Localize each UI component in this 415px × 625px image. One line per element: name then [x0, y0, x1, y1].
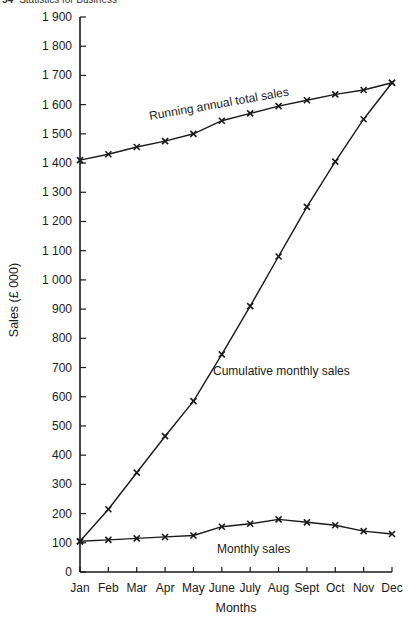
line-chart: 01002003004005006007008009001 0001 1001 …: [0, 0, 415, 625]
y-tick-label: 200: [52, 507, 72, 521]
y-tick-label: 1 400: [42, 156, 72, 170]
series-group: [77, 80, 395, 545]
x-tick-label: July: [240, 581, 261, 595]
y-tick-label: 0: [65, 565, 72, 579]
x-tick-label: Dec: [381, 581, 402, 595]
x-tick-label: June: [209, 581, 235, 595]
series-annotation: Running annual total sales: [148, 85, 290, 123]
y-tick-label: 1 700: [42, 68, 72, 82]
y-tick-label: 300: [52, 477, 72, 491]
x-marker-icon: [247, 303, 253, 309]
x-tick-label: Aug: [268, 581, 289, 595]
y-tick-label: 1 300: [42, 185, 72, 199]
y-tick-label: 500: [52, 419, 72, 433]
x-marker-icon: [276, 254, 282, 260]
series-line: [80, 83, 392, 542]
y-tick-label: 1 800: [42, 39, 72, 53]
series-annotation: Monthly sales: [217, 542, 290, 556]
y-tick-label: 1 100: [42, 244, 72, 258]
x-marker-icon: [134, 470, 140, 476]
x-tick-label: Jan: [70, 581, 89, 595]
series-0: [77, 80, 395, 163]
y-tick-label: 400: [52, 448, 72, 462]
x-tick-label: Nov: [353, 581, 374, 595]
y-tick-label: 1 000: [42, 273, 72, 287]
series-annotation: Cumulative monthly sales: [213, 364, 350, 378]
x-tick-label: Sept: [295, 581, 320, 595]
x-marker-icon: [105, 506, 111, 512]
y-tick-label: 900: [52, 302, 72, 316]
y-tick-label: 100: [52, 536, 72, 550]
series-2: [77, 516, 395, 544]
x-tick-label: Feb: [98, 581, 119, 595]
y-tick-label: 1 500: [42, 127, 72, 141]
y-tick-label: 800: [52, 331, 72, 345]
x-tick-label: Apr: [156, 581, 175, 595]
x-marker-icon: [162, 433, 168, 439]
y-tick-label: 600: [52, 390, 72, 404]
x-tick-label: May: [182, 581, 205, 595]
series-line: [80, 519, 392, 541]
y-tick-label: 1 200: [42, 214, 72, 228]
x-axis: JanFebMarAprMayJuneJulyAugSeptOctNovDec: [70, 567, 402, 595]
series-labels: Running annual total salesCumulative mon…: [148, 85, 350, 556]
x-marker-icon: [332, 159, 338, 165]
x-axis-title: Months: [216, 601, 257, 615]
y-axis-title: Sales (£ 000): [7, 263, 21, 337]
x-tick-label: Mar: [126, 581, 147, 595]
y-tick-label: 700: [52, 361, 72, 375]
x-marker-icon: [219, 351, 225, 357]
x-marker-icon: [190, 398, 196, 404]
y-tick-label: 1 900: [42, 10, 72, 24]
x-marker-icon: [304, 204, 310, 210]
y-tick-label: 1 600: [42, 98, 72, 112]
x-tick-label: Oct: [326, 581, 345, 595]
x-marker-icon: [361, 116, 367, 122]
y-axis: 01002003004005006007008009001 0001 1001 …: [42, 10, 86, 579]
